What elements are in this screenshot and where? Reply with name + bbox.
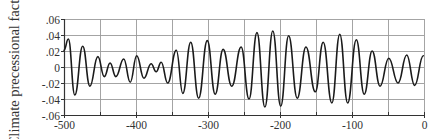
axes: [61, 19, 425, 118]
y-tick-label: .02: [46, 46, 61, 58]
x-tick-label: -100: [342, 119, 363, 131]
x-tick-label: -300: [198, 119, 219, 131]
y-tick-label: -.02: [42, 78, 60, 90]
x-tick-label: -400: [126, 119, 147, 131]
y-tick-label: -.04: [42, 94, 60, 106]
y-tick-label: 0: [54, 62, 60, 74]
y-tick-label: .06: [46, 14, 61, 26]
precession-curve: [64, 31, 423, 107]
chart-canvas: .06.04.020-.02-.04-.06-500-400-300-200-1…: [0, 0, 447, 139]
y-axis-title: Climate precessional factor: [6, 0, 22, 139]
precession-chart: .06.04.020-.02-.04-.06-500-400-300-200-1…: [0, 0, 447, 139]
x-tick-label: -200: [270, 119, 291, 131]
tick-labels: .06.04.020-.02-.04-.06-500-400-300-200-1…: [42, 14, 428, 132]
x-tick-label: -500: [54, 119, 75, 131]
x-tick-label: 0: [422, 119, 428, 131]
y-tick-label: .04: [46, 30, 61, 42]
data-series: [64, 31, 423, 107]
